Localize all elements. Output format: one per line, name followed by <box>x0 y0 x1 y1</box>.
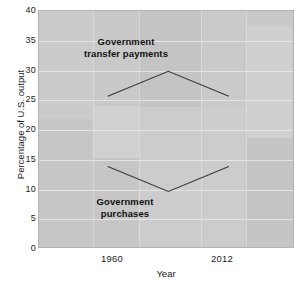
x-axis-title: Year <box>38 268 294 279</box>
series-annotation-transfer-payments: Government transfer payments <box>56 36 196 60</box>
annotation-line-1: Government <box>56 36 196 48</box>
series-annotation-purchases: Government purchases <box>60 196 190 220</box>
series-line-government-transfer-payments <box>108 71 229 96</box>
annotation-line-2: purchases <box>60 208 190 220</box>
annotation-line-1: Government <box>60 196 190 208</box>
x-tick-1960: 1960 <box>101 253 123 264</box>
chart-figure: 40 35 30 25 20 15 10 5 0 <box>0 0 303 282</box>
y-axis-title: Percentage of U.S. output <box>15 35 26 215</box>
annotation-line-2: transfer payments <box>56 48 196 60</box>
x-tick-2012: 2012 <box>211 253 233 264</box>
series-line-government-purchases <box>108 166 229 191</box>
